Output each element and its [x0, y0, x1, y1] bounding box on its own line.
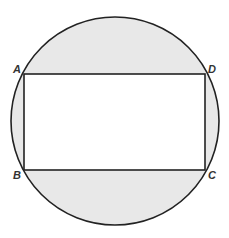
label-a: A: [12, 63, 21, 75]
diagram-canvas: A D B C: [0, 0, 229, 238]
rectangle-abcd: [24, 74, 205, 170]
label-c: C: [208, 169, 217, 181]
label-b: B: [13, 169, 21, 181]
label-d: D: [208, 63, 216, 75]
